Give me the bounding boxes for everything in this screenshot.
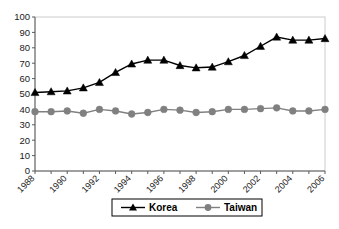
legend-circle-marker — [205, 204, 212, 211]
y-axis-tick-label: 20 — [19, 135, 30, 146]
data-point-marker-taiwan — [144, 109, 151, 116]
legend-label-taiwan: Taiwan — [224, 202, 257, 213]
chart-canvas: 0102030405060708090100198819901992199419… — [0, 0, 339, 229]
y-axis-tick-label: 40 — [19, 104, 30, 115]
data-point-marker-taiwan — [48, 108, 55, 115]
data-point-marker-taiwan — [112, 108, 119, 115]
data-point-marker-taiwan — [177, 107, 184, 114]
data-point-marker-taiwan — [305, 108, 312, 115]
data-point-marker-taiwan — [273, 104, 280, 111]
x-axis-tick-label: 2002 — [241, 173, 262, 194]
data-point-marker-taiwan — [160, 106, 167, 113]
y-axis-tick-label: 30 — [19, 119, 30, 130]
data-point-marker-taiwan — [209, 108, 216, 115]
data-point-marker-taiwan — [80, 110, 87, 117]
y-axis-tick-label: 50 — [19, 88, 30, 99]
y-axis-tick-label: 80 — [19, 42, 30, 53]
x-axis-tick-label: 1996 — [144, 173, 165, 194]
x-axis-tick-label: 1990 — [47, 173, 68, 194]
x-axis-tick-label: 1994 — [112, 173, 133, 194]
legend-label-korea: Korea — [149, 202, 178, 213]
data-point-marker-taiwan — [257, 105, 264, 112]
data-point-marker-taiwan — [289, 108, 296, 115]
data-point-marker-taiwan — [96, 106, 103, 113]
data-point-marker-taiwan — [193, 109, 200, 116]
y-axis-tick-label: 90 — [19, 27, 30, 38]
data-point-marker-taiwan — [64, 108, 71, 115]
x-axis-tick-label: 1992 — [80, 173, 101, 194]
line-chart: 0102030405060708090100198819901992199419… — [0, 0, 339, 229]
chart-legend: KoreaTaiwan — [112, 199, 262, 216]
x-axis-tick-label: 1988 — [15, 173, 36, 194]
y-axis-tick-label: 10 — [19, 150, 30, 161]
data-point-marker-taiwan — [225, 106, 232, 113]
x-axis-tick-label: 2004 — [273, 173, 294, 194]
y-axis-tick-label: 70 — [19, 58, 30, 69]
data-point-marker-taiwan — [128, 111, 135, 118]
x-axis-tick-label: 2000 — [209, 173, 230, 194]
y-axis-tick-label: 60 — [19, 73, 30, 84]
x-axis-tick-label: 1998 — [176, 173, 197, 194]
data-point-marker-taiwan — [32, 108, 39, 115]
x-axis-tick-label: 2006 — [305, 173, 326, 194]
data-point-marker-taiwan — [241, 106, 248, 113]
data-point-marker-taiwan — [322, 106, 329, 113]
plot-area-border — [35, 17, 325, 171]
y-axis-tick-label: 100 — [14, 11, 30, 22]
